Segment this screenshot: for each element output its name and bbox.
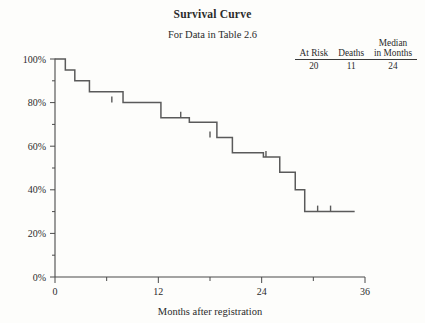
y-axis-tick-label: 40% (28, 184, 46, 195)
y-axis-tick-label: 100% (23, 54, 46, 65)
y-axis-tick-label: 80% (28, 97, 46, 108)
y-axis-tick-label: 60% (28, 141, 46, 152)
y-axis-tick-label: 20% (28, 228, 46, 239)
survival-step-curve (55, 59, 355, 212)
x-axis-title: Months after registration (158, 306, 263, 317)
x-axis-tick-label: 24 (257, 286, 267, 297)
y-axis-tick-label: 0% (33, 272, 46, 283)
survival-plot: 0%20%40%60%80%100%0122436Months after re… (0, 0, 425, 323)
survival-curve-figure: Survival Curve For Data in Table 2.6 At … (0, 0, 425, 323)
x-axis-tick-label: 12 (153, 286, 163, 297)
censoring-marks-group (112, 97, 331, 212)
x-axis-tick-label: 0 (53, 286, 58, 297)
x-axis-tick-label: 36 (360, 286, 370, 297)
survival-step-path (55, 59, 355, 212)
